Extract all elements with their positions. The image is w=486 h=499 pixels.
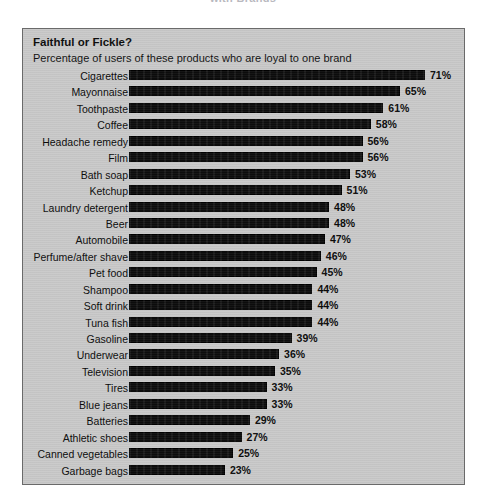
bar-value-label: 58% bbox=[376, 118, 397, 131]
bar-value-label: 44% bbox=[317, 299, 338, 312]
bar bbox=[129, 366, 275, 376]
bar bbox=[129, 284, 312, 294]
bar-category-label: Cigarettes bbox=[22, 70, 128, 83]
bar bbox=[129, 415, 250, 425]
bar-value-label: 61% bbox=[388, 102, 409, 115]
bar-value-label: 27% bbox=[247, 431, 268, 444]
bar-category-label: Coffee bbox=[22, 119, 128, 132]
bar-value-label: 71% bbox=[430, 69, 451, 82]
bar bbox=[129, 465, 225, 475]
bar-value-label: 56% bbox=[368, 135, 389, 148]
bar-row: Beer48% bbox=[23, 218, 465, 234]
bar-value-label: 48% bbox=[334, 201, 355, 214]
bar-category-label: Laundry detergent bbox=[22, 202, 128, 215]
bar-category-label: Headache remedy bbox=[22, 136, 128, 149]
bar-category-label: Canned vegetables bbox=[22, 448, 128, 461]
bar-category-label: Mayonnaise bbox=[22, 86, 128, 99]
bar-row: Tires33% bbox=[23, 382, 465, 398]
bar-category-label: Athletic shoes bbox=[22, 432, 128, 445]
bar-row: Headache remedy56% bbox=[23, 136, 465, 152]
bar-row: Underwear36% bbox=[23, 349, 465, 365]
bar-value-label: 45% bbox=[322, 266, 343, 279]
bar-row: Laundry detergent48% bbox=[23, 202, 465, 218]
bar-category-label: Perfume/after shave bbox=[22, 251, 128, 264]
bar-row: Canned vegetables25% bbox=[23, 448, 465, 464]
bar bbox=[129, 317, 312, 327]
bar-value-label: 23% bbox=[230, 464, 251, 477]
bar-row: Cigarettes71% bbox=[23, 70, 465, 86]
bar-value-label: 48% bbox=[334, 217, 355, 230]
bar-category-label: Batteries bbox=[22, 415, 128, 428]
bar bbox=[129, 136, 363, 146]
bar-row: Automobile47% bbox=[23, 234, 465, 250]
bar bbox=[129, 234, 325, 244]
bar bbox=[129, 300, 312, 310]
bar-category-label: Toothpaste bbox=[22, 103, 128, 116]
bar-category-label: Film bbox=[22, 152, 128, 165]
bar bbox=[129, 185, 342, 195]
bar-category-label: Television bbox=[22, 366, 128, 379]
bar-row: Television35% bbox=[23, 366, 465, 382]
bar-value-label: 33% bbox=[272, 398, 293, 411]
bar-value-label: 44% bbox=[317, 316, 338, 329]
bar bbox=[129, 251, 321, 261]
bar-value-label: 39% bbox=[297, 332, 318, 345]
bar-value-label: 56% bbox=[368, 151, 389, 164]
bar-row: Soft drink44% bbox=[23, 300, 465, 316]
chart-panel: Faithful or Fickle? Percentage of users … bbox=[22, 28, 465, 485]
bar-value-label: 29% bbox=[255, 414, 276, 427]
bar bbox=[129, 399, 267, 409]
bar-row: Film56% bbox=[23, 152, 465, 168]
bar-row: Coffee58% bbox=[23, 119, 465, 135]
bar-row: Toothpaste61% bbox=[23, 103, 465, 119]
bar-value-label: 33% bbox=[272, 381, 293, 394]
bar-row: Garbage bags23% bbox=[23, 465, 465, 481]
bar bbox=[129, 119, 371, 129]
bar bbox=[129, 448, 233, 458]
bar-row: Batteries29% bbox=[23, 415, 465, 431]
page-header-clipped: with Brands bbox=[0, 0, 486, 6]
bar bbox=[129, 349, 279, 359]
bar bbox=[129, 218, 329, 228]
bar-category-label: Tires bbox=[22, 382, 128, 395]
bar-row: Bath soap53% bbox=[23, 169, 465, 185]
bar-category-label: Shampoo bbox=[22, 284, 128, 297]
bar-row: Pet food45% bbox=[23, 267, 465, 283]
bar-row: Ketchup51% bbox=[23, 185, 465, 201]
bar-category-label: Underwear bbox=[22, 349, 128, 362]
bar bbox=[129, 333, 292, 343]
bar-chart-plot-area: Cigarettes71%Mayonnaise65%Toothpaste61%C… bbox=[23, 70, 465, 484]
bar-value-label: 46% bbox=[326, 250, 347, 263]
bar-category-label: Blue jeans bbox=[22, 399, 128, 412]
bar bbox=[129, 267, 317, 277]
bar-row: Mayonnaise65% bbox=[23, 86, 465, 102]
bar-category-label: Beer bbox=[22, 218, 128, 231]
bar-value-label: 51% bbox=[347, 184, 368, 197]
bar-value-label: 25% bbox=[238, 447, 259, 460]
bar-row: Perfume/after shave46% bbox=[23, 251, 465, 267]
bar bbox=[129, 103, 383, 113]
bar-category-label: Gasoline bbox=[22, 333, 128, 346]
bar-value-label: 36% bbox=[284, 348, 305, 361]
bar-row: Gasoline39% bbox=[23, 333, 465, 349]
bar-category-label: Pet food bbox=[22, 267, 128, 280]
bar-value-label: 35% bbox=[280, 365, 301, 378]
bar-category-label: Automobile bbox=[22, 234, 128, 247]
bar-row: Athletic shoes27% bbox=[23, 432, 465, 448]
bar bbox=[129, 432, 242, 442]
chart-title: Faithful or Fickle? bbox=[33, 36, 132, 48]
bar bbox=[129, 70, 425, 80]
bar-category-label: Ketchup bbox=[22, 185, 128, 198]
bar-category-label: Tuna fish bbox=[22, 317, 128, 330]
bar bbox=[129, 169, 350, 179]
bar bbox=[129, 86, 400, 96]
bar-category-label: Soft drink bbox=[22, 300, 128, 313]
bar-row: Blue jeans33% bbox=[23, 399, 465, 415]
bar-value-label: 53% bbox=[355, 168, 376, 181]
bar bbox=[129, 202, 329, 212]
bar-category-label: Bath soap bbox=[22, 169, 128, 182]
bar-value-label: 65% bbox=[405, 85, 426, 98]
bar-value-label: 44% bbox=[317, 283, 338, 296]
bar-value-label: 47% bbox=[330, 233, 351, 246]
bar-row: Shampoo44% bbox=[23, 284, 465, 300]
